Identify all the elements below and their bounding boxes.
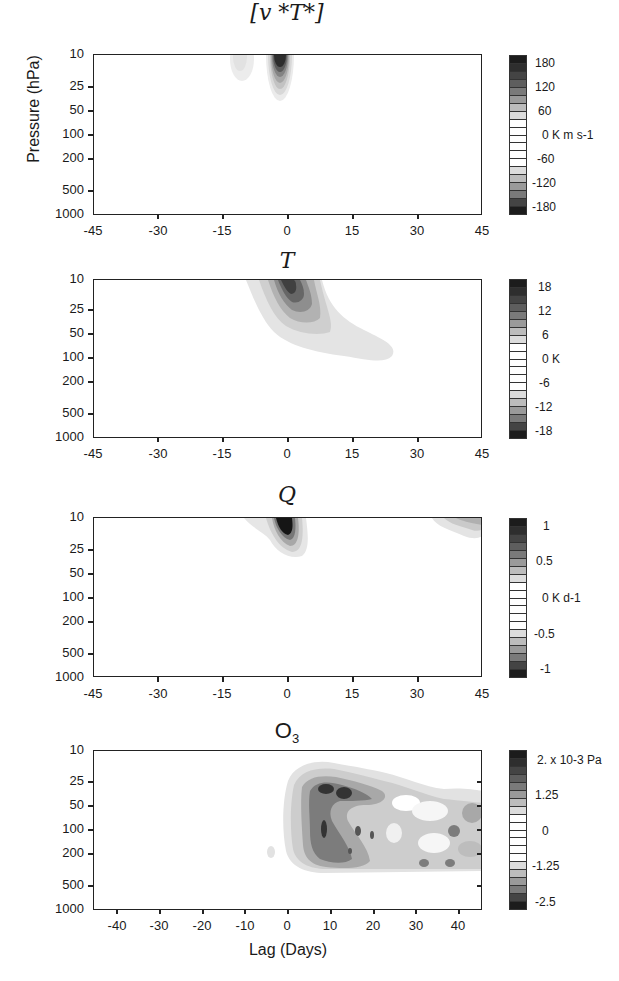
ytick: 50: [44, 565, 84, 580]
xtick: -45: [73, 223, 113, 238]
ytick: 200: [44, 373, 84, 388]
y-axis-label: Pressure (hPa): [25, 39, 43, 179]
colorbar-label: 6: [542, 328, 549, 342]
ytick: 100: [44, 821, 84, 836]
xtick-mark: [287, 214, 289, 219]
ytick-mark-right: [477, 885, 482, 887]
xtick-mark: [352, 677, 354, 682]
ytick: 25: [44, 773, 84, 788]
ytick: 1000: [44, 669, 84, 684]
ytick: 100: [44, 126, 84, 141]
xtick: -45: [73, 446, 113, 461]
xtick: 30: [397, 446, 437, 461]
xtick: -30: [138, 446, 178, 461]
ytick-mark-right: [477, 805, 482, 807]
plot-area-t: [93, 279, 482, 438]
xtick: 20: [353, 918, 393, 933]
xtick: -15: [202, 223, 242, 238]
plot-area-o3: [93, 750, 482, 910]
ytick-mark: [88, 110, 93, 112]
ytick: 100: [44, 589, 84, 604]
xtick: -30: [138, 223, 178, 238]
ytick: 1000: [44, 901, 84, 916]
xtick-mark: [417, 677, 419, 682]
x-axis-label: Lag (Days): [208, 941, 368, 959]
xtick-mark: [222, 437, 224, 442]
xtick: 30: [397, 686, 437, 701]
colorbar-label: 18: [538, 280, 551, 294]
ytick-mark: [88, 781, 93, 783]
panel-title-vt: [v *T*]: [187, 0, 387, 25]
xtick-mark: [458, 909, 460, 914]
colorbar-label: -180: [532, 200, 556, 214]
ytick: 500: [44, 645, 84, 660]
colorbar-o3: [509, 750, 527, 910]
ytick: 100: [44, 349, 84, 364]
ytick: 500: [44, 405, 84, 420]
ytick-mark: [88, 573, 93, 575]
xtick: 0: [267, 223, 307, 238]
colorbar-label: 0: [542, 824, 549, 838]
xtick: 45: [462, 223, 502, 238]
ytick-mark-right: [477, 829, 482, 831]
ytick: 25: [44, 78, 84, 93]
colorbar-label: -0.5: [534, 627, 555, 641]
xtick: 0: [267, 686, 307, 701]
ytick-mark: [88, 621, 93, 623]
ytick: 10: [44, 509, 84, 524]
ytick-mark: [88, 158, 93, 160]
ytick: 200: [44, 613, 84, 628]
colorbar-label: -18: [535, 424, 552, 438]
xtick-mark: [415, 909, 417, 914]
colorbar-label: 1: [543, 519, 550, 533]
contour-t: [94, 280, 482, 438]
xtick: 0: [267, 918, 307, 933]
xtick-mark: [287, 677, 289, 682]
contour-vt: [94, 55, 482, 215]
xtick-mark: [330, 909, 332, 914]
xtick: 15: [332, 446, 372, 461]
ytick-mark: [88, 805, 93, 807]
colorbar-label: -12: [535, 400, 552, 414]
colorbar-label: 1.25: [535, 788, 558, 802]
panel-title-o3: O3: [187, 718, 387, 746]
ytick: 500: [44, 877, 84, 892]
xtick: 45: [462, 446, 502, 461]
ytick-mark: [88, 381, 93, 383]
xtick: 15: [332, 686, 372, 701]
colorbar-label: 0 K: [542, 352, 560, 366]
colorbar-q: [509, 518, 527, 678]
xtick: 0: [267, 446, 307, 461]
colorbar-t: [509, 279, 527, 439]
ytick: 25: [44, 301, 84, 316]
xtick-mark: [222, 214, 224, 219]
ytick-mark: [88, 549, 93, 551]
xtick-mark: [244, 909, 246, 914]
xtick-mark: [157, 214, 159, 219]
xtick: -30: [139, 918, 179, 933]
ytick: 200: [44, 150, 84, 165]
ytick: 1000: [44, 206, 84, 221]
xtick: 10: [310, 918, 350, 933]
ytick-mark: [88, 190, 93, 192]
xtick-mark: [159, 909, 161, 914]
colorbar-label: 0 K d-1: [542, 591, 581, 605]
xtick-mark: [417, 437, 419, 442]
ytick-mark: [88, 653, 93, 655]
xtick: -40: [97, 918, 137, 933]
xtick: 30: [397, 223, 437, 238]
colorbar-label: 0 K m s-1: [542, 128, 593, 142]
xtick-mark: [222, 677, 224, 682]
ytick: 50: [44, 325, 84, 340]
xtick: -10: [225, 918, 265, 933]
xtick: -30: [138, 686, 178, 701]
xtick: 30: [396, 918, 436, 933]
xtick-mark: [116, 909, 118, 914]
ytick: 50: [44, 797, 84, 812]
colorbar-label: 2. x 10-3 Pa: [537, 753, 602, 767]
ytick: 50: [44, 102, 84, 117]
ytick-mark: [88, 357, 93, 359]
ytick: 10: [44, 271, 84, 286]
xtick: 45: [462, 686, 502, 701]
plot-area-q: [93, 517, 482, 677]
